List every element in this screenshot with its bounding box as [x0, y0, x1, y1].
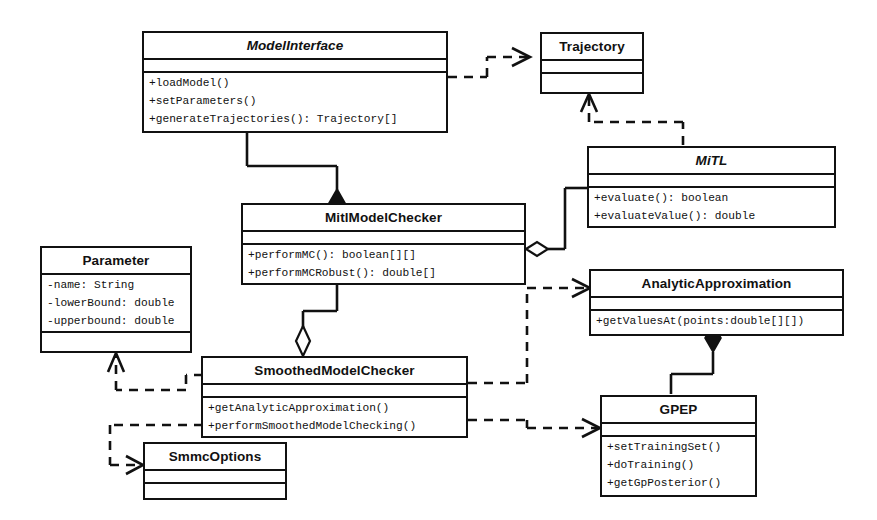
- attribute-row: -lowerBound: double: [42, 294, 190, 312]
- class-box-gpep[interactable]: GPEP +setTrainingSet() +doTraining() +ge…: [600, 395, 757, 497]
- operations-compartment-model-interface: +loadModel() +setParameters() +generateT…: [144, 73, 446, 129]
- aggregation-mitlmodelchecker-mitl: [526, 188, 587, 256]
- attributes-compartment-trajectory: [542, 61, 642, 72]
- class-box-model-interface[interactable]: ModelInterface +loadModel() +setParamete…: [142, 31, 448, 133]
- dependency-smoothedmodelchecker-analyticapproximation: [468, 279, 590, 383]
- operation-row: +evaluate(): boolean: [589, 189, 834, 207]
- class-name-analytic-approximation: AnalyticApproximation: [591, 271, 842, 296]
- operation-row: +getGpPosterior(): [602, 474, 755, 492]
- dependency-smoothedmodelchecker-parameter: [108, 353, 203, 390]
- attributes-compartment-model-interface: [144, 60, 446, 71]
- class-name-parameter: Parameter: [42, 248, 190, 273]
- attributes-compartment-gpep: [602, 424, 755, 435]
- dependency-smoothedmodelchecker-gpep: [468, 419, 600, 437]
- attributes-compartment-smoothed-model-checker: [203, 385, 466, 396]
- operation-row: +doTraining(): [602, 456, 755, 474]
- class-box-mitl-model-checker[interactable]: MitlModelChecker +performMC(): boolean[]…: [241, 203, 526, 285]
- class-box-parameter[interactable]: Parameter -name: String -lowerBound: dou…: [40, 246, 192, 353]
- class-name-trajectory: Trajectory: [542, 34, 642, 59]
- uml-diagram-canvas: ModelInterface +loadModel() +setParamete…: [0, 0, 877, 520]
- operation-row: +performSmoothedModelChecking(): [203, 417, 466, 435]
- operation-row: +evaluateValue(): double: [589, 207, 834, 225]
- attributes-compartment-parameter: -name: String -lowerBound: double -upper…: [42, 275, 190, 331]
- class-name-mitl: MiTL: [589, 148, 834, 173]
- operations-compartment-analytic-approximation: +getValuesAt(points:double[][]): [591, 311, 842, 331]
- class-box-smoothed-model-checker[interactable]: SmoothedModelChecker +getAnalyticApproxi…: [201, 356, 468, 438]
- class-box-trajectory[interactable]: Trajectory: [540, 32, 644, 94]
- operations-compartment-trajectory: [542, 74, 642, 85]
- operation-row: +performMCRobust(): double[]: [243, 264, 524, 282]
- attributes-compartment-analytic-approximation: [591, 298, 842, 309]
- class-box-analytic-approximation[interactable]: AnalyticApproximation +getValuesAt(point…: [589, 269, 844, 336]
- class-box-mitl[interactable]: MiTL +evaluate(): boolean +evaluateValue…: [587, 146, 836, 228]
- operations-compartment-smoothed-model-checker: +getAnalyticApproximation() +performSmoo…: [203, 398, 466, 436]
- operations-compartment-smmc-options: [145, 484, 285, 495]
- dependency-mitl-trajectory: [581, 94, 683, 145]
- operation-row: +getValuesAt(points:double[][]): [591, 312, 842, 330]
- operation-row: +setParameters(): [144, 92, 446, 110]
- class-name-smoothed-model-checker: SmoothedModelChecker: [203, 358, 466, 383]
- operation-row: +generateTrajectories(): Trajectory[]: [144, 110, 446, 128]
- aggregation-smoothedmodelchecker-mitlmodelchecker: [296, 285, 337, 356]
- operations-compartment-mitl-model-checker: +performMC(): boolean[][] +performMCRobu…: [243, 245, 524, 283]
- operations-compartment-gpep: +setTrainingSet() +doTraining() +getGpPo…: [602, 437, 755, 493]
- operation-row: +setTrainingSet(): [602, 438, 755, 456]
- class-name-mitl-model-checker: MitlModelChecker: [243, 205, 524, 230]
- class-name-smmc-options: SmmcOptions: [145, 444, 285, 469]
- dependency-modelinterface-trajectory: [448, 48, 530, 77]
- operations-compartment-mitl: +evaluate(): boolean +evaluateValue(): d…: [589, 188, 834, 226]
- attributes-compartment-mitl-model-checker: [243, 232, 524, 243]
- attributes-compartment-smmc-options: [145, 471, 285, 482]
- operation-row: +loadModel(): [144, 74, 446, 92]
- operations-compartment-parameter: [42, 333, 190, 344]
- class-name-model-interface: ModelInterface: [144, 33, 446, 58]
- operation-row: +performMC(): boolean[][]: [243, 246, 524, 264]
- attributes-compartment-mitl: [589, 175, 834, 186]
- attribute-row: -name: String: [42, 276, 190, 294]
- class-box-smmc-options[interactable]: SmmcOptions: [143, 442, 287, 500]
- class-name-gpep: GPEP: [602, 397, 755, 422]
- operation-row: +getAnalyticApproximation(): [203, 399, 466, 417]
- attribute-row: -upperbound: double: [42, 312, 190, 330]
